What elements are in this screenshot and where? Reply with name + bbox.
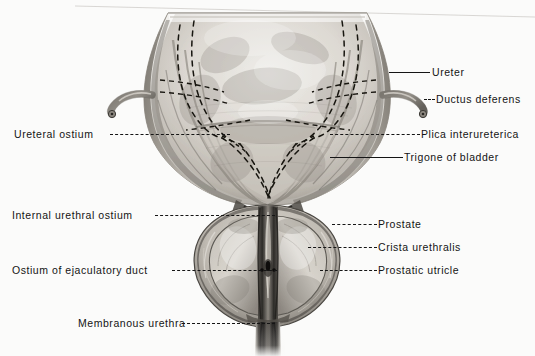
leader-line-trigone-of-bladder [330, 157, 403, 158]
leader-line-prostate [332, 224, 377, 225]
label-ductus-deferens: Ductus deferens [436, 93, 521, 105]
anatomical-figure: Ureter Ductus deferens Ureteral ostium P… [0, 0, 535, 356]
leader-line-ostium-ejaculatory-duct [172, 270, 277, 271]
leader-line-plica-interureterica [330, 134, 420, 135]
membranous-urethra [246, 314, 290, 356]
label-crista-urethralis: Crista urethralis [378, 241, 461, 253]
label-internal-urethral-ostium: Internal urethral ostium [12, 209, 133, 221]
leader-line-ureter [389, 72, 430, 73]
leader-line-prostatic-utricle [320, 270, 377, 271]
urinary-bladder [141, 13, 395, 206]
label-ureteral-ostium: Ureteral ostium [14, 128, 93, 140]
leader-line-crista-urethralis [308, 247, 377, 248]
label-prostatic-utricle: Prostatic utricle [378, 264, 459, 276]
label-membranous-urethra: Membranous urethra [78, 317, 185, 329]
leader-line-ureteral-ostium [110, 134, 230, 135]
label-ostium-of-ejaculatory-duct: Ostium of ejaculatory duct [12, 264, 148, 276]
leader-line-membranous-urethra [182, 323, 275, 324]
label-prostate: Prostate [378, 218, 422, 230]
label-ureter: Ureter [432, 66, 464, 78]
label-trigone-of-bladder: Trigone of bladder [404, 151, 499, 163]
prostate-gland [194, 205, 340, 330]
leader-line-internal-urethral-ostium [155, 215, 275, 216]
bladder-prostate-illustration [0, 0, 535, 356]
label-plica-interureterica: Plica interureterica [421, 128, 519, 140]
leader-line-ductus-deferens [424, 99, 435, 100]
